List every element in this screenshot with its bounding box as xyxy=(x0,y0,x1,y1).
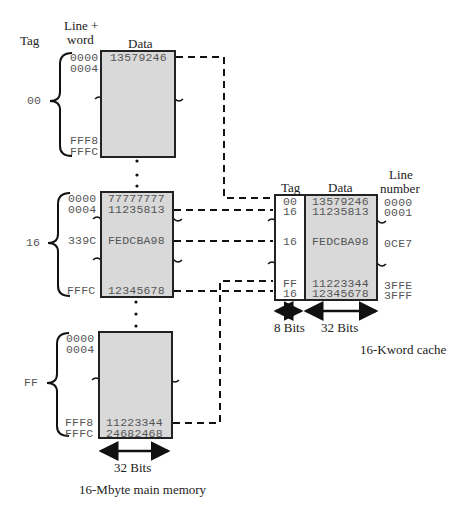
memory-word: 24682468 xyxy=(106,427,163,440)
address-label: FFFC xyxy=(70,145,98,158)
brace-tag-16 xyxy=(48,193,70,296)
cache-tag-width-label: 8 Bits xyxy=(274,320,305,336)
main-memory-tag-header: Tag xyxy=(20,33,39,49)
cache-word: 11235813 xyxy=(312,205,369,218)
tag-label-16: 16 xyxy=(26,236,40,249)
memory-block-tag-00 xyxy=(100,50,176,158)
brace-tag-00 xyxy=(50,53,72,156)
cache-caption: 16-Kword cache xyxy=(360,342,446,358)
main-memory-caption: 16-Mbyte main memory xyxy=(79,482,206,498)
cache-line-number: 0001 xyxy=(384,206,412,219)
cache-tag: 16 xyxy=(283,235,297,248)
mapping-connectors xyxy=(173,57,273,423)
cache-line-number: 0CE7 xyxy=(384,237,412,250)
address-label: 0004 xyxy=(68,203,96,216)
main-memory-line-word-header-2: word xyxy=(67,32,94,48)
address-label: 0004 xyxy=(70,62,98,75)
address-label: 339C xyxy=(68,234,96,247)
address-label: FFFC xyxy=(65,427,93,440)
tag-label-00: 00 xyxy=(27,94,41,107)
memory-word: FEDCBA98 xyxy=(108,234,165,247)
main-memory-width-label: 32 Bits xyxy=(114,460,151,476)
memory-word: 12345678 xyxy=(108,284,165,297)
cache-tag: 16 xyxy=(283,287,297,300)
cache-tag: 16 xyxy=(283,205,297,218)
cache-data-width-label: 32 Bits xyxy=(321,320,358,336)
tag-label-ff: FF xyxy=(24,376,38,389)
address-label: FFFC xyxy=(67,284,95,297)
cache-line-number: 3FFF xyxy=(384,289,412,302)
memory-word: 11235813 xyxy=(108,203,165,216)
address-label: 0004 xyxy=(66,343,94,356)
memory-word: 13579246 xyxy=(110,51,167,64)
cache-line-header-2: number xyxy=(380,181,420,197)
cache-word: 12345678 xyxy=(312,287,369,300)
cache-word: FEDCBA98 xyxy=(312,235,369,248)
